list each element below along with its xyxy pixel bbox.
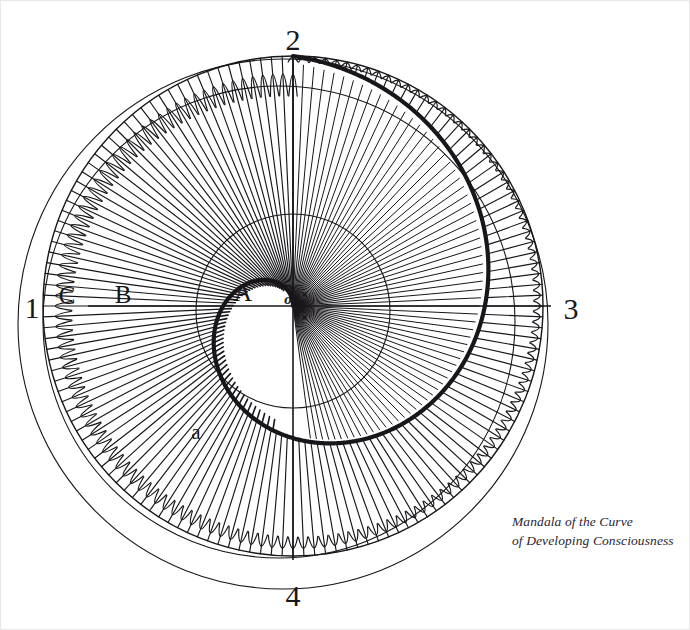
outer-circles-group <box>18 56 548 589</box>
point-label-o: o <box>284 292 292 307</box>
caption-line-2: of Developing Consciousness <box>512 531 682 550</box>
figure-caption: Mandala of the Curve of Developing Consc… <box>512 512 682 550</box>
point-label-C: C <box>59 283 76 308</box>
mandala-figure: 1 2 3 4 C B A o a Mandala of the Curve o… <box>0 0 690 630</box>
point-label-A: A <box>234 280 252 305</box>
point-label-B: B <box>115 282 132 307</box>
quadrant-label-4: 4 <box>286 581 301 611</box>
quadrant-label-2: 2 <box>286 25 301 55</box>
point-label-a: a <box>191 422 200 443</box>
quadrant-label-1: 1 <box>25 293 40 323</box>
quadrant-label-3: 3 <box>564 294 579 324</box>
caption-line-1: Mandala of the Curve <box>512 512 682 531</box>
